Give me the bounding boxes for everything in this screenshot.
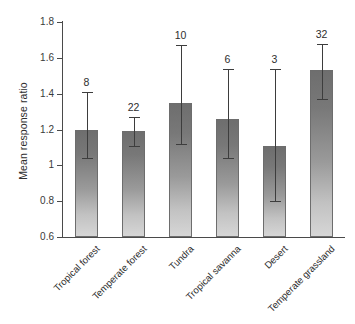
y-tick-label: 1 — [16, 160, 54, 170]
error-bar-line — [322, 44, 323, 100]
error-bar-cap-upper — [270, 69, 281, 70]
error-bar-cap-lower — [82, 158, 93, 159]
error-bar-line — [181, 45, 182, 144]
bar-count-label: 8 — [72, 77, 102, 88]
error-bar-line — [275, 69, 276, 202]
error-bar-cap-lower — [270, 201, 281, 202]
y-tick-mark — [57, 58, 63, 59]
y-tick-mark — [57, 201, 63, 202]
error-bar-line — [228, 69, 229, 159]
y-tick-mark — [57, 22, 63, 23]
bar-count-label: 32 — [307, 29, 337, 40]
y-tick-label: 1.2 — [16, 125, 54, 135]
bar-chart-figure: Mean response ratio 0.60.811.21.41.61.8 … — [0, 0, 355, 324]
error-bar-cap-upper — [223, 69, 234, 70]
x-axis-line — [62, 237, 345, 238]
y-tick-label: 0.6 — [16, 232, 54, 242]
error-bar-cap-lower — [129, 146, 140, 147]
y-tick-mark — [57, 165, 63, 166]
y-tick-label: 0.8 — [16, 196, 54, 206]
error-bar-cap-upper — [129, 117, 140, 118]
error-bar-cap-upper — [317, 44, 328, 45]
bar-count-label: 22 — [119, 102, 149, 113]
error-bar-line — [87, 92, 88, 158]
y-tick-label: 1.4 — [16, 89, 54, 99]
error-bar-cap-lower — [223, 158, 234, 159]
bar — [122, 131, 145, 237]
y-tick-mark — [57, 94, 63, 95]
y-tick-label: 1.6 — [16, 53, 54, 63]
y-tick-label: 1.8 — [16, 17, 54, 27]
bar-count-label: 10 — [166, 30, 196, 41]
bar-count-label: 6 — [213, 54, 243, 65]
y-tick-mark — [57, 130, 63, 131]
y-tick-mark — [57, 237, 63, 238]
error-bar-line — [134, 117, 135, 146]
error-bar-cap-lower — [176, 144, 187, 145]
error-bar-cap-upper — [82, 92, 93, 93]
x-axis-label: Temperate grassland — [244, 243, 337, 324]
bar-count-label: 3 — [260, 54, 290, 65]
error-bar-cap-lower — [317, 99, 328, 100]
error-bar-cap-upper — [176, 45, 187, 46]
